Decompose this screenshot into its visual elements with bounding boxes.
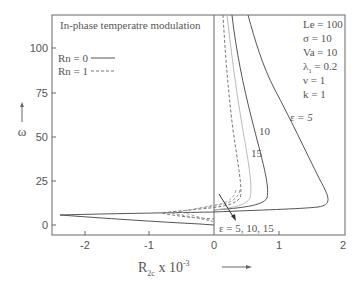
curve-rn0-eps15 [214, 15, 251, 210]
arrow-right-icon [246, 265, 252, 269]
plot-frame [52, 15, 345, 235]
annotation-eps5: ε = 5 [290, 111, 313, 123]
y-tick-label: 0 [42, 219, 48, 231]
y-tick-label: 50 [36, 131, 48, 143]
curve-rn0-eps10 [214, 15, 268, 210]
curve-rn1-eps10 [172, 190, 240, 222]
x-tick-label: 2 [340, 239, 346, 251]
legend-rn1: Rn = 1 [58, 65, 88, 77]
x-tick-label: -1 [144, 239, 154, 251]
x-tick-label: 0 [211, 239, 217, 251]
parameter-box: Le = 100 σ = 10 Va = 10 λ1 = 0.2 ν = 1 k… [303, 18, 343, 100]
svg-text:k = 1: k = 1 [303, 88, 326, 100]
curve-rn1-eps5 [162, 15, 241, 219]
svg-text:λ1 = 0.2: λ1 = 0.2 [303, 60, 337, 75]
annotation-eps15: 15 [251, 147, 263, 159]
svg-text:ν = 1: ν = 1 [303, 74, 325, 86]
y-tick-label: 100 [30, 42, 48, 54]
curves [60, 15, 328, 225]
annotation-arrow [219, 194, 234, 218]
annotation-eps10: 10 [259, 125, 271, 137]
y-axis-label: ω [18, 102, 27, 139]
svg-text:R2c x 10-3: R2c x 10-3 [138, 259, 190, 278]
chart: 100 75 50 25 0 -2 -1 0 1 2 ω R2c x 10-3 … [0, 0, 362, 283]
chart-title: In-phase temperatre modulation [60, 19, 201, 31]
svg-text:ω: ω [18, 124, 27, 139]
svg-text:Va = 10: Va = 10 [303, 46, 338, 58]
annotation-eps-all: ε = 5, 10, 15 [219, 222, 274, 234]
svg-text:Le = 100: Le = 100 [303, 18, 343, 30]
y-tick-label: 75 [36, 87, 48, 99]
arrow-up-icon [20, 102, 24, 107]
legend-rn0: Rn = 0 [58, 52, 89, 64]
x-axis: -2 -1 0 1 2 [80, 231, 346, 251]
x-axis-label: R2c x 10-3 [138, 259, 252, 278]
x-tick-label: 1 [276, 239, 282, 251]
y-tick-label: 25 [36, 175, 48, 187]
curve-rn0-eps5 [60, 15, 328, 225]
legend: Rn = 0 Rn = 1 [58, 52, 115, 77]
svg-text:σ = 10: σ = 10 [303, 32, 332, 44]
x-tick-label: -2 [80, 239, 90, 251]
